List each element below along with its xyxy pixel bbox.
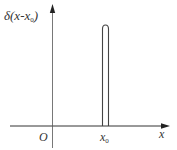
origin-label: O bbox=[39, 131, 48, 143]
y-axis-arrow-icon bbox=[50, 4, 55, 13]
y-axis-label: δ(x-x0) bbox=[4, 9, 38, 24]
x-axis-label: x bbox=[159, 128, 164, 140]
pulse-position-label: x0 bbox=[100, 131, 109, 145]
delta-pulse bbox=[103, 25, 109, 126]
x-axis bbox=[10, 123, 170, 129]
